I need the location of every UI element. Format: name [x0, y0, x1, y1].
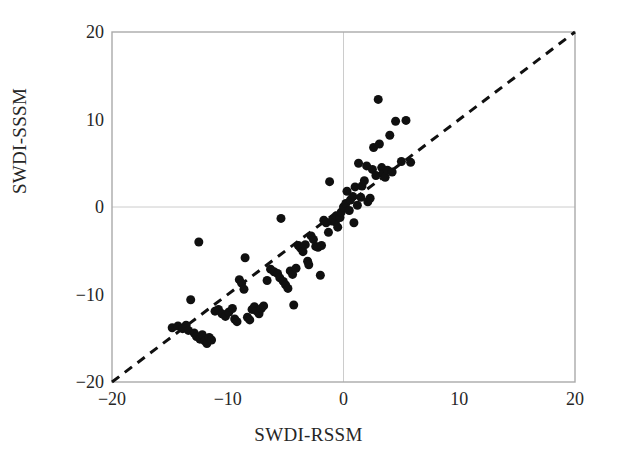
- scatter-point: [263, 276, 272, 285]
- scatter-point: [277, 214, 286, 223]
- scatter-point: [348, 192, 357, 201]
- scatter-point: [316, 271, 325, 280]
- scatter-point: [388, 168, 397, 177]
- scatter-point: [245, 315, 254, 324]
- scatter-point: [354, 159, 363, 168]
- scatter-point: [317, 241, 326, 250]
- scatter-point: [391, 117, 400, 126]
- scatter-point: [345, 206, 354, 215]
- scatter-point: [239, 285, 248, 294]
- scatter-point: [406, 158, 415, 167]
- scatter-point: [186, 295, 195, 304]
- scatter-point: [241, 253, 250, 262]
- scatter-point: [228, 304, 237, 313]
- scatter-point: [353, 201, 362, 210]
- scatter-point: [375, 140, 384, 149]
- scatter-point: [360, 176, 369, 185]
- scatter-point: [194, 238, 203, 247]
- scatter-point: [259, 301, 268, 310]
- scatter-point: [289, 301, 298, 310]
- scatter-point: [333, 223, 342, 232]
- scatter-point: [366, 194, 375, 203]
- scatter-point: [402, 116, 411, 125]
- scatter-chart-figure: SWDI-SSSM SWDI-RSSM 20 10 0 −10 −20 −20 …: [0, 0, 617, 459]
- scatter-point: [385, 131, 394, 140]
- plot-canvas: [0, 0, 617, 459]
- scatter-point: [283, 284, 292, 293]
- scatter-point: [233, 317, 242, 326]
- scatter-point: [301, 240, 310, 249]
- scatter-point: [292, 264, 301, 273]
- scatter-point: [324, 228, 333, 237]
- scatter-point: [304, 260, 313, 269]
- scatter-point: [349, 218, 358, 227]
- scatter-point: [207, 336, 216, 345]
- scatter-point: [397, 157, 406, 166]
- scatter-point: [325, 177, 334, 186]
- scatter-point: [374, 95, 383, 104]
